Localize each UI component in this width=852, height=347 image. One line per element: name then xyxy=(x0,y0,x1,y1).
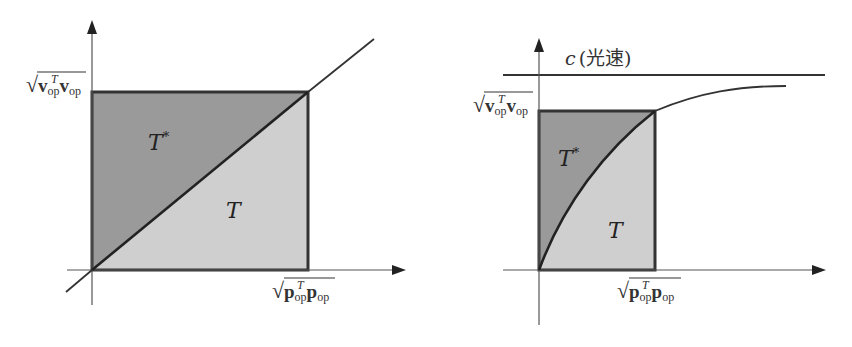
right-y-axis-label: √ vopvop T xyxy=(473,92,533,118)
right-y-label-expr: vopvop xyxy=(485,95,528,118)
left-x-label-expr: poppop xyxy=(284,281,329,304)
left-y-axis-arrow xyxy=(87,20,97,34)
figure-canvas: T* T √ vopvop T √ poppop T xyxy=(0,0,852,347)
right-x-label-expr: poppop xyxy=(629,281,674,304)
right-x-axis-label: √ poppop T xyxy=(617,278,681,304)
left-x-axis-arrow xyxy=(392,265,406,275)
right-asymptote-label: c(光速) xyxy=(565,47,631,69)
right-t-label: T xyxy=(608,218,625,243)
left-t-label: T xyxy=(226,198,243,223)
left-diagonal-extension-upper xyxy=(308,39,374,92)
left-x-axis-label: √ poppop T xyxy=(272,278,335,304)
left-y-axis-label: √ vopvop T xyxy=(26,72,86,98)
left-diagram: T* T √ vopvop T √ poppop T xyxy=(26,20,406,305)
right-velocity-curve-extension xyxy=(655,86,786,111)
right-y-axis-arrow xyxy=(534,38,544,52)
left-y-label-expr: vopvop xyxy=(38,75,81,98)
right-x-axis-arrow xyxy=(812,265,826,275)
right-diagram: c(光速) T* T √ vopvop T √ poppop T xyxy=(473,38,826,325)
left-diagonal-extension-lower xyxy=(66,270,92,292)
